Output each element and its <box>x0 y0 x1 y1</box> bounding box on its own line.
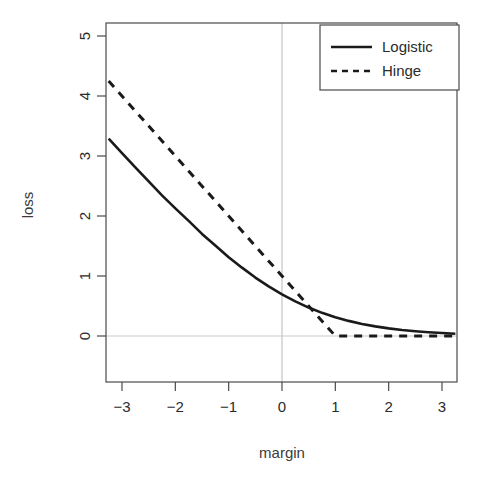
x-tick-label: 1 <box>331 398 339 415</box>
legend-label-logistic: Logistic <box>382 38 433 55</box>
chart-figure: −3−2−10123 012345 margin loss Logistic H… <box>0 0 480 494</box>
x-axis-title: margin <box>259 444 305 461</box>
y-tick-label: 0 <box>76 332 93 340</box>
y-tick-label: 5 <box>76 32 93 40</box>
y-tick-label: 4 <box>76 92 93 100</box>
x-tick-label: −1 <box>220 398 237 415</box>
x-tick-label: −3 <box>113 398 130 415</box>
x-tick-label: −2 <box>167 398 184 415</box>
x-tick-label: 3 <box>438 398 446 415</box>
x-tick-label: 2 <box>384 398 392 415</box>
y-tick-label: 3 <box>76 152 93 160</box>
loss-functions-plot: −3−2−10123 012345 margin loss Logistic H… <box>0 0 480 494</box>
legend-box <box>320 25 459 90</box>
y-axis-ticks: 012345 <box>76 32 107 340</box>
y-tick-label: 1 <box>76 272 93 280</box>
y-axis-title: loss <box>19 192 36 219</box>
legend-label-hinge: Hinge <box>382 62 421 79</box>
legend: Logistic Hinge <box>320 25 459 90</box>
x-axis-ticks: −3−2−10123 <box>113 382 446 415</box>
y-tick-label: 2 <box>76 212 93 220</box>
x-tick-label: 0 <box>278 398 286 415</box>
